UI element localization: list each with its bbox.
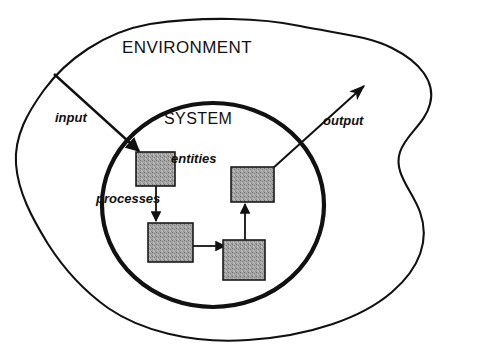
entity-box-4 [223, 240, 265, 280]
entities-label: entities [171, 151, 217, 166]
environment-boundary [16, 19, 431, 341]
entity-box-2 [231, 167, 274, 202]
entity-box-3 [148, 223, 193, 262]
output-label: output [323, 113, 363, 128]
input-label: input [55, 110, 87, 125]
processes-label: processes [96, 191, 160, 206]
environment-label: ENVIRONMENT [122, 38, 252, 58]
entity-box-1 [136, 152, 175, 186]
diagram-canvas: ENVIRONMENT SYSTEM input output entities… [0, 0, 481, 359]
system-label: SYSTEM [164, 110, 232, 128]
